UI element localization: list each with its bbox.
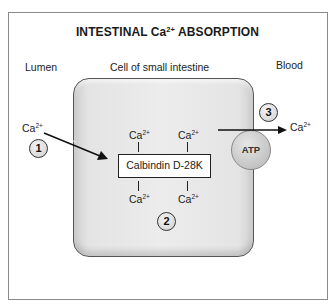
- arrowhead-icon: [278, 126, 287, 134]
- uptake-arrow: [44, 133, 100, 156]
- arrows-layer: [0, 0, 335, 308]
